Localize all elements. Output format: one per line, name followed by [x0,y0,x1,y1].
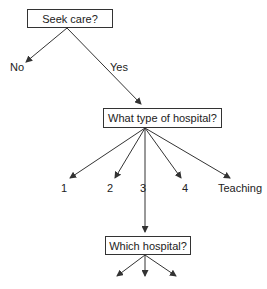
hospital-type-label-teaching: Teaching [218,182,262,194]
edge-type-teaching [145,128,230,178]
node-seek-care: Seek care? [27,9,113,28]
edge-which-c [145,255,176,276]
edge-type-4 [145,128,181,178]
hospital-type-label-1: 1 [61,182,67,194]
hospital-type-label-4: 4 [182,182,188,194]
edge-seek-no [26,28,67,62]
edge-seek-yes [67,28,141,104]
edge-which-a [117,255,145,276]
node-hospital-type: What type of hospital? [103,108,222,128]
hospital-type-label-3: 3 [140,182,146,194]
hospital-type-label-2: 2 [107,182,113,194]
node-which-hospital: Which hospital? [105,236,191,255]
edge-type-2 [115,128,145,178]
edge-label-no: No [10,61,24,73]
edge-label-yes: Yes [110,61,128,73]
edge-type-1 [70,128,145,178]
